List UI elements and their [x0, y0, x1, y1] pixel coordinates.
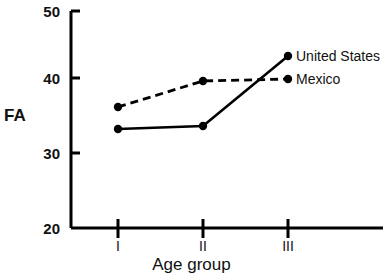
y-tick-label-50: 50: [26, 4, 60, 19]
line-chart: 50 40 30 20 I II III FA Age group United…: [0, 0, 383, 280]
y-tick-label-40: 40: [26, 71, 60, 86]
series-line-united-states: [118, 56, 288, 129]
x-tick-label-i: I: [98, 239, 138, 253]
x-tick-label-iii: III: [268, 239, 308, 253]
y-tick-label-20: 20: [26, 221, 60, 236]
y-axis-title: FA: [4, 107, 26, 124]
chart-canvas: [0, 0, 383, 280]
legend-label-mexico: Mexico: [296, 72, 340, 86]
x-tick-label-ii: II: [183, 239, 223, 253]
data-point-mexico-ii: [199, 77, 207, 85]
data-point-united-states-i: [114, 125, 122, 133]
data-point-mexico-i: [114, 103, 122, 111]
legend-label-united-states: United States: [296, 49, 380, 63]
data-point-mexico-iii: [284, 75, 292, 83]
data-point-united-states-ii: [199, 122, 207, 130]
x-axis-title: Age group: [0, 256, 383, 273]
y-tick-label-30: 30: [26, 146, 60, 161]
data-point-united-states-iii: [284, 52, 292, 60]
